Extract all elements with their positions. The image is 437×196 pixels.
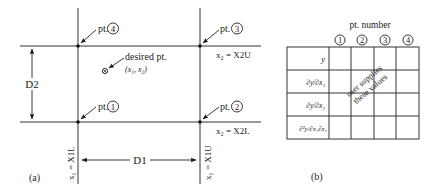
d1-dimension: D1: [82, 153, 196, 166]
left-line-label: x₁ = X1L: [66, 146, 76, 180]
panel-b-caption: (b): [311, 171, 323, 183]
diagram-canvas: D2 D1 pt. 4 pt. 3 pt. 1 pt. 2: [0, 0, 437, 196]
point-2-prefix: pt.: [220, 101, 230, 112]
column-header: 3: [383, 35, 387, 45]
pointer-arrow-icon: [203, 30, 219, 43]
point-2-number: 2: [235, 102, 240, 112]
column-header: 1: [338, 35, 342, 45]
point-4-callout: pt. 4: [81, 23, 119, 43]
lower-line-label: x₂ = X2L: [216, 126, 250, 136]
pointer-arrow-icon: [109, 58, 124, 68]
column-header: 2: [360, 35, 364, 45]
point-2-dot: [198, 120, 202, 124]
d2-dimension: D2: [24, 49, 40, 119]
panel-a-caption: (a): [29, 172, 40, 184]
point-3-number: 3: [235, 24, 240, 34]
right-line-label: x₁ = X1U: [203, 145, 213, 180]
pointer-arrow-icon: [203, 107, 219, 119]
desired-point-coords: (x₁, x₂): [125, 65, 147, 74]
pointer-arrow-icon: [81, 30, 96, 43]
row-label: ∂y/∂x₁: [306, 78, 325, 87]
point-4-prefix: pt.: [98, 23, 108, 34]
column-header: 4: [406, 35, 411, 45]
desired-point: desired pt. (x₁, x₂): [102, 51, 166, 74]
point-4-dot: [76, 44, 80, 48]
row-label: ∂²y/∂x₁∂x₂: [299, 125, 327, 132]
point-2-callout: pt. 2: [203, 101, 243, 119]
point-1-number: 1: [111, 102, 116, 112]
upper-line-label: x₂ = X2U: [216, 50, 251, 60]
point-3-callout: pt. 3: [203, 23, 243, 43]
row-label: y: [320, 54, 325, 64]
d2-label: D2: [25, 78, 38, 90]
point-1-callout: pt. 1: [81, 101, 119, 119]
point-4-number: 4: [111, 24, 116, 34]
desired-point-label: desired pt.: [125, 51, 167, 62]
column-headers: 1 2 3 4: [335, 35, 413, 45]
point-1-dot: [76, 120, 80, 124]
row-label: ∂y/∂x₂: [306, 101, 325, 110]
point-3-dot: [198, 44, 202, 48]
pointer-arrow-icon: [81, 107, 96, 119]
point-1-prefix: pt.: [98, 101, 108, 112]
point-3-prefix: pt.: [220, 23, 230, 34]
d1-label: D1: [133, 154, 146, 166]
table-header: pt. number: [349, 20, 391, 30]
